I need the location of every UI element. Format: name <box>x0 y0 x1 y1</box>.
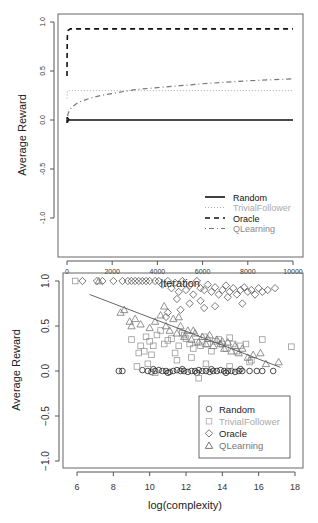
point-trivialfollower <box>145 361 151 367</box>
point-qlearning <box>131 315 138 321</box>
legend-label-trivialfollower: TrivialFollower <box>219 416 280 427</box>
point-qlearning <box>175 313 182 319</box>
point-trivialfollower <box>72 278 78 284</box>
top-x-tick-label: 0 <box>65 268 69 275</box>
legend-label-qlearning: QLearning <box>219 440 263 451</box>
top-y-tick-label: 0.5 <box>39 66 46 76</box>
point-trivialfollower <box>227 335 233 341</box>
point-oracle <box>190 291 197 298</box>
bottom-x-tick-label: 14 <box>217 482 227 492</box>
bottom-x-tick-label: 16 <box>254 482 264 492</box>
point-oracle <box>233 291 240 298</box>
point-random <box>140 367 146 373</box>
point-trivialfollower <box>189 355 195 361</box>
point-oracle <box>208 288 215 295</box>
point-trivialfollower <box>136 350 142 356</box>
bottom-x-tick-label: 8 <box>111 482 116 492</box>
point-trivialfollower <box>209 348 215 354</box>
point-trivialfollower <box>289 344 295 350</box>
point-oracle <box>211 284 218 291</box>
point-random <box>260 368 266 374</box>
point-oracle <box>201 304 208 311</box>
point-qlearning <box>157 312 164 318</box>
legend-label-oracle: Oracle <box>233 214 260 224</box>
point-trivialfollower <box>174 357 180 363</box>
bottom-y-tick-label: 0.0 <box>40 364 51 378</box>
point-trivialfollower <box>243 341 249 347</box>
top-x-tick-label: 6000 <box>195 268 211 275</box>
bottom-y-tick-label: 1.0 <box>40 274 51 288</box>
top-plot-frame <box>58 14 303 257</box>
point-random <box>185 369 191 375</box>
point-oracle <box>230 285 237 292</box>
point-trivialfollower <box>149 352 155 358</box>
top-series-lines <box>67 29 293 123</box>
point-random <box>120 368 126 374</box>
point-trivialfollower <box>176 343 182 349</box>
point-oracle <box>119 277 126 284</box>
point-random <box>174 367 180 373</box>
bottom-x-tick-label: 18 <box>290 482 300 492</box>
point-trivialfollower <box>141 348 147 354</box>
legend-label-random: Random <box>233 193 267 203</box>
point-oracle <box>173 295 180 302</box>
top-y-axis-title: Average Reward <box>16 94 28 176</box>
series-line-trivialfollower <box>67 91 293 99</box>
point-trivialfollower <box>203 361 209 367</box>
point-oracle <box>239 300 246 307</box>
point-random <box>170 368 176 374</box>
point-oracle <box>215 291 222 298</box>
series-line-qlearning <box>67 79 293 120</box>
point-trivialfollower <box>260 337 266 343</box>
bottom-x-axis-title: log(complexity) <box>148 499 222 511</box>
top-y-tick-label: 0.0 <box>39 115 46 125</box>
bottom-legend: RandomTrivialFollowerOracleQLearning <box>199 396 290 458</box>
bottom-x-tick-label: 10 <box>145 482 155 492</box>
point-trivialfollower <box>196 375 202 381</box>
top-y-tick-label: 1.0 <box>39 17 46 27</box>
top-axes: -1.0-0.50.00.51.00200040006000800010000 <box>39 17 303 275</box>
bottom-x-tick-label: 12 <box>181 482 191 492</box>
point-oracle <box>255 285 262 292</box>
top-x-tick-label: 8000 <box>240 268 256 275</box>
point-trivialfollower <box>134 364 140 370</box>
bottom-x-tick-label: 6 <box>74 482 79 492</box>
top-x-tick-label: 2000 <box>104 268 120 275</box>
bottom-axes: −1.0−0.50.00.51.0681012141618 <box>40 274 300 492</box>
top-x-tick-label: 4000 <box>150 268 166 275</box>
point-oracle <box>271 285 278 292</box>
point-trivialfollower <box>172 350 178 356</box>
point-random <box>203 368 209 374</box>
point-oracle <box>79 277 86 284</box>
bottom-y-tick-label: −1.0 <box>40 451 51 471</box>
point-random <box>247 368 253 374</box>
bottom-y-tick-label: 0.5 <box>40 319 51 333</box>
point-oracle <box>211 303 218 310</box>
point-random <box>254 368 260 374</box>
point-random <box>270 368 276 374</box>
regression-line <box>90 295 281 368</box>
bottom-scatter-chart: −1.0−0.50.00.51.0681012141618 RandomTriv… <box>10 273 303 511</box>
point-oracle <box>219 286 226 293</box>
point-trivialfollower <box>161 341 167 347</box>
point-random <box>232 369 238 375</box>
point-qlearning <box>257 349 264 355</box>
bottom-scatter-points <box>72 277 294 381</box>
point-oracle <box>110 277 117 284</box>
point-trivialfollower <box>129 337 135 343</box>
top-x-tick-label: 10000 <box>283 268 303 275</box>
point-qlearning <box>128 322 135 328</box>
figure: -1.0-0.50.00.51.00200040006000800010000 … <box>0 0 318 523</box>
point-trivialfollower <box>138 343 144 349</box>
point-trivialfollower <box>169 336 175 342</box>
point-trivialfollower <box>165 338 171 344</box>
bottom-regression <box>90 295 281 368</box>
point-oracle <box>244 288 251 295</box>
point-oracle <box>222 282 229 289</box>
point-oracle <box>248 286 255 293</box>
series-line-oracle <box>67 29 293 76</box>
point-qlearning <box>161 303 168 309</box>
series-line-random <box>67 117 293 123</box>
top-y-tick-label: -0.5 <box>39 163 46 175</box>
point-oracle <box>175 288 182 295</box>
